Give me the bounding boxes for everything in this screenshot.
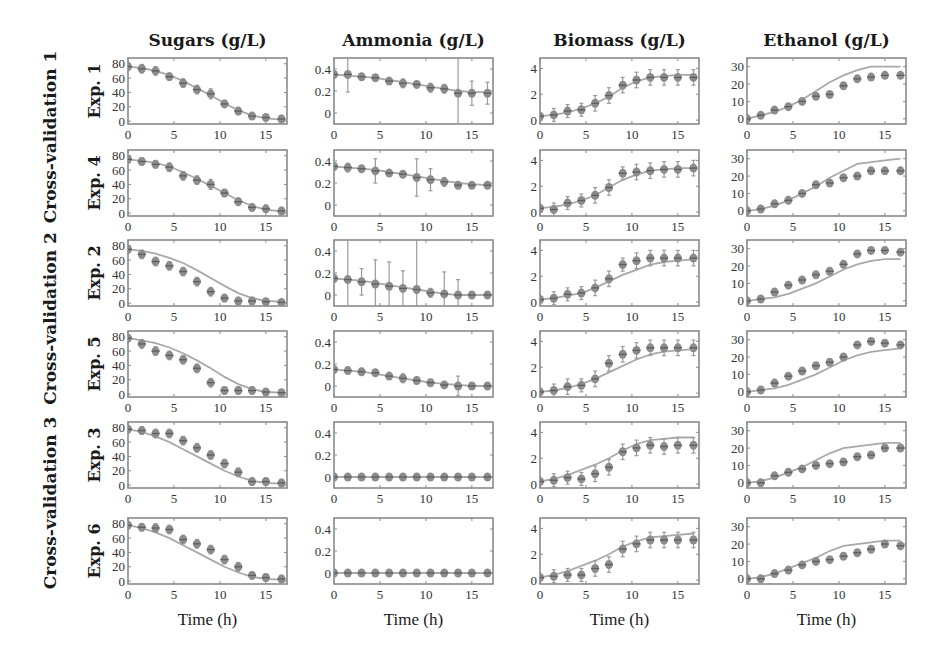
experiment-label: Exp. 5 (85, 336, 104, 391)
y-tick-label: 4 (531, 334, 538, 349)
column-title-sugars: Sugars (g/L) (148, 30, 266, 50)
panel-ammonia-row1: 05101500.20.4 (315, 38, 493, 148)
y-tick-label: 0 (738, 384, 745, 399)
x-tick-label: 15 (878, 127, 891, 142)
y-tick-label: 0.4 (315, 426, 332, 441)
y-tick-label: 0.4 (315, 62, 332, 77)
panel-biomass-row4: 051015024 (531, 331, 700, 415)
x-tick-label: 0 (744, 400, 751, 415)
y-tick-label: 60 (112, 253, 125, 268)
x-tick-label: 5 (583, 400, 590, 415)
y-tick-label: 60 (112, 531, 125, 546)
x-tick-label: 10 (213, 491, 226, 506)
panel-ammonia-row6: 05101500.20.4 (315, 518, 493, 602)
y-tick-label: 30 (731, 151, 744, 166)
y-tick-label: 4 (531, 521, 538, 536)
x-tick-label: 0 (331, 587, 338, 602)
x-tick-label: 5 (583, 127, 590, 142)
y-tick-label: 40 (112, 85, 125, 100)
group-label-cv2: Cross-validation 2 (40, 232, 60, 405)
experiment-label: Exp. 2 (85, 245, 104, 300)
y-tick-label: 20 (112, 559, 125, 574)
y-tick-label: 0 (119, 478, 126, 493)
y-tick-label: 60 (112, 435, 125, 450)
y-tick-label: 10 (731, 367, 744, 382)
y-tick-label: 20 (731, 537, 744, 552)
x-tick-label: 10 (419, 309, 432, 324)
x-tick-label: 5 (790, 127, 797, 142)
y-tick-label: 40 (112, 177, 125, 192)
x-tick-label: 5 (377, 309, 384, 324)
y-tick-label: 0 (119, 387, 126, 402)
y-tick-label: 20 (112, 281, 125, 296)
x-tick-label: 0 (537, 587, 544, 602)
cross-validation-labels: Cross-validation 1Cross-validation 2Cros… (40, 51, 60, 590)
x-tick-label: 15 (671, 127, 684, 142)
y-tick-label: 0.2 (315, 544, 331, 559)
x-tick-label: 10 (832, 491, 845, 506)
x-tick-label: 0 (537, 400, 544, 415)
x-axis-label: Time (h) (590, 610, 649, 629)
x-tick-label: 5 (583, 219, 590, 234)
y-tick-label: 0 (738, 475, 745, 490)
y-tick-label: 80 (112, 516, 125, 531)
y-tick-label: 0.4 (315, 154, 332, 169)
panel-ammonia-row5: 05101500.20.4 (315, 422, 493, 506)
y-tick-label: 20 (731, 169, 744, 184)
y-tick-label: 0 (325, 379, 332, 394)
figure-grid: Sugars (g/L)Ammonia (g/L)Biomass (g/L)Et… (0, 0, 948, 669)
x-tick-label: 15 (465, 219, 478, 234)
y-tick-label: 80 (112, 56, 125, 71)
y-tick-label: 0.2 (315, 176, 331, 191)
x-tick-label: 10 (832, 309, 845, 324)
y-tick-label: 80 (112, 329, 125, 344)
x-axis-labels: Time (h)Time (h)Time (h)Time (h) (178, 610, 856, 629)
y-tick-label: 0 (325, 198, 332, 213)
y-tick-label: 30 (731, 59, 744, 74)
y-tick-label: 80 (112, 148, 125, 163)
panel-biomass-row3: 051015024 (531, 240, 700, 324)
y-tick-label: 0 (531, 573, 538, 588)
y-tick-label: 0.2 (315, 357, 331, 372)
x-tick-label: 15 (465, 400, 478, 415)
y-tick-label: 40 (112, 545, 125, 560)
panel-sugars-row6: 051015020406080 (112, 516, 287, 602)
panel-ethanol-row1: 0510150102030 (731, 58, 906, 142)
column-title-ethanol: Ethanol (g/L) (763, 30, 889, 50)
y-tick-label: 20 (112, 99, 125, 114)
x-tick-label: 10 (419, 587, 432, 602)
plot-frame (128, 331, 287, 397)
x-tick-label: 5 (583, 587, 590, 602)
x-tick-label: 10 (213, 400, 226, 415)
y-tick-label: 10 (731, 554, 744, 569)
y-tick-label: 10 (731, 276, 744, 291)
x-tick-label: 0 (331, 491, 338, 506)
x-tick-label: 0 (331, 127, 338, 142)
y-tick-label: 0 (531, 295, 538, 310)
x-tick-label: 0 (744, 309, 751, 324)
plot-frame (540, 150, 699, 216)
x-tick-label: 5 (377, 491, 384, 506)
plot-frame (747, 58, 906, 124)
x-tick-label: 15 (259, 309, 272, 324)
y-tick-label: 4 (531, 153, 538, 168)
x-tick-label: 5 (377, 587, 384, 602)
x-tick-label: 10 (625, 127, 638, 142)
x-tick-label: 5 (171, 491, 178, 506)
panels: Exp. 105101502040608005101500.20.4051015… (85, 38, 906, 602)
x-tick-label: 10 (213, 127, 226, 142)
x-tick-label: 10 (832, 127, 845, 142)
x-tick-label: 15 (671, 309, 684, 324)
y-tick-label: 20 (731, 77, 744, 92)
x-tick-label: 15 (259, 491, 272, 506)
plot-frame (540, 58, 699, 124)
y-tick-label: 20 (731, 350, 744, 365)
y-tick-label: 10 (731, 458, 744, 473)
x-tick-label: 15 (259, 400, 272, 415)
y-tick-label: 0 (325, 470, 332, 485)
plot-frame (128, 58, 287, 124)
x-tick-label: 15 (878, 219, 891, 234)
x-tick-label: 15 (259, 219, 272, 234)
x-tick-label: 5 (790, 491, 797, 506)
x-tick-label: 0 (537, 309, 544, 324)
